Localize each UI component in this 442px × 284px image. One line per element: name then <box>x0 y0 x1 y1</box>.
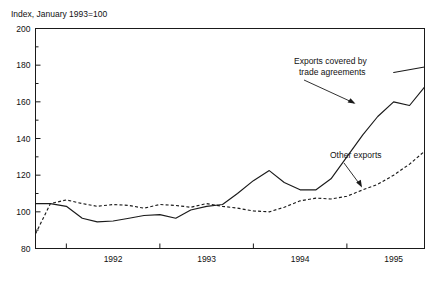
y-tick-label: 120 <box>16 170 30 180</box>
series-line-solid <box>394 67 425 73</box>
annotation-other-exports-line1: Other exports <box>330 150 382 160</box>
y-tick-label: 80 <box>21 244 31 254</box>
x-tick-label: 1994 <box>291 254 310 264</box>
x-axis: 1992199319941995 <box>66 244 403 264</box>
axis-title: Index, January 1993=100 <box>11 9 107 19</box>
annotation-exports-covered: Exports covered by trade agreements <box>294 56 368 104</box>
annotation-exports-covered-arrow <box>304 80 354 103</box>
x-tick-label: 1995 <box>384 254 403 264</box>
chart-figure: Index, January 1993=100 8010012014016018… <box>0 0 442 284</box>
annotation-exports-covered-line1: Exports covered by <box>294 56 368 66</box>
y-tick-label: 140 <box>16 134 30 144</box>
annotation-exports-covered-arrowhead <box>348 98 356 104</box>
x-tick-label: 1992 <box>104 254 123 264</box>
y-tick-label: 200 <box>16 24 30 34</box>
y-tick-label: 160 <box>16 97 30 107</box>
exports-index-line-chart: Index, January 1993=100 8010012014016018… <box>0 0 442 284</box>
y-axis: 80100120140160180200 <box>16 24 40 254</box>
annotation-exports-covered-line2: trade agreements <box>299 67 366 77</box>
x-tick-label: 1993 <box>197 254 216 264</box>
y-tick-label: 100 <box>16 207 30 217</box>
y-tick-label: 180 <box>16 60 30 70</box>
